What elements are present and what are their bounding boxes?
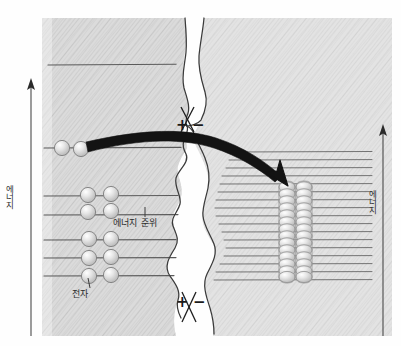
junction-minus-bottom: −: [193, 295, 206, 310]
electron-sphere: [80, 204, 95, 219]
shaded-right-region: [194, 14, 394, 340]
electron-sphere: [279, 271, 295, 282]
electron-column-left: [279, 182, 295, 283]
electron-sphere: [103, 249, 118, 264]
electron-column-right: [296, 182, 312, 283]
shaded-left-region: [38, 14, 198, 340]
electron-sphere: [81, 231, 96, 246]
electron-sphere: [54, 140, 69, 155]
electron-sphere: [103, 186, 118, 201]
energy-axis-left-label: 에너지: [4, 185, 13, 209]
electron-sphere: [103, 267, 118, 282]
energy-axis-left-arrow: [27, 78, 35, 336]
electron-label: 전자: [72, 287, 88, 300]
energy-axis-right-label: 에너지: [367, 190, 376, 214]
junction-plus-bottom: +: [176, 295, 189, 310]
electron-sphere: [103, 231, 118, 246]
slab-edge-fade: [38, 14, 52, 340]
energy-level-line: [48, 64, 176, 65]
energy-level-label: 에너지 준위: [113, 216, 157, 229]
electron-sphere: [296, 271, 312, 282]
band-line: [233, 152, 372, 153]
diagram-canvas: 에너지 에너지 에너지 준위 전자 + − + −: [0, 0, 401, 346]
junction-minus-top: −: [192, 118, 205, 133]
electron-sphere: [81, 250, 96, 265]
junction-plus-top: +: [176, 118, 189, 133]
electron-sphere: [80, 187, 95, 202]
